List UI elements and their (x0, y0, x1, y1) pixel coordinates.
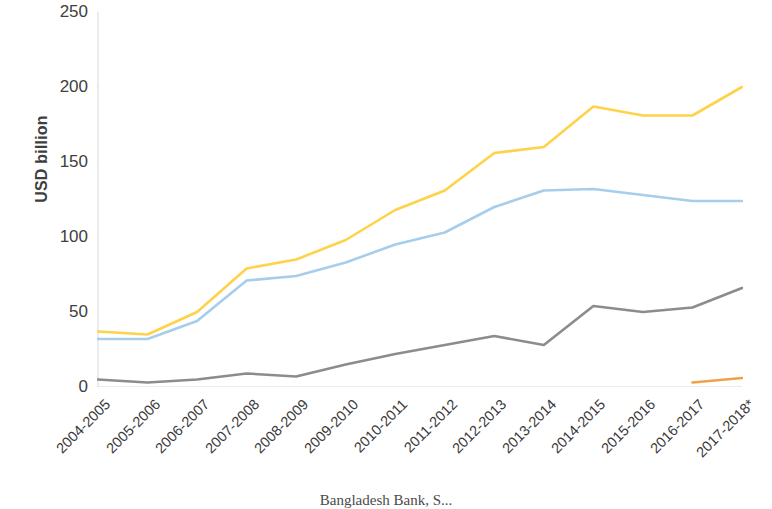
x-axis-tick-labels: 2004-20052005-20062006-20072007-20082008… (0, 392, 772, 482)
chart-caption: Bangladesh Bank, S... (0, 492, 772, 509)
y-axis-tick-label: 150 (44, 153, 88, 170)
series-line-series-yellow (98, 87, 742, 335)
y-axis-tick-label: 50 (44, 303, 88, 320)
series-line-series-blue (98, 189, 742, 339)
y-axis-tick-label: 250 (44, 3, 88, 20)
plot-svg (97, 12, 743, 387)
line-chart: USD billion 250200150100500 2004-2005200… (0, 0, 772, 509)
y-axis-tick-label: 100 (44, 228, 88, 245)
series-line-series-gray (98, 288, 742, 383)
y-axis-tick-label: 200 (44, 78, 88, 95)
plot-area (97, 12, 743, 387)
series-line-series-orange (692, 378, 742, 383)
